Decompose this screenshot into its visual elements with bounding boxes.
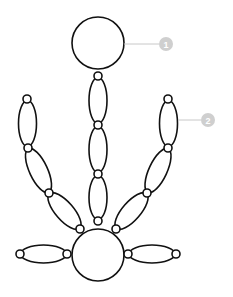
callout-label: 1 bbox=[163, 40, 168, 50]
callout-label: 2 bbox=[205, 116, 210, 126]
node bbox=[94, 170, 102, 178]
node bbox=[143, 189, 151, 197]
node bbox=[124, 250, 132, 258]
node bbox=[24, 144, 32, 152]
callout-1: 1 bbox=[124, 37, 173, 51]
node bbox=[112, 225, 120, 233]
loop bbox=[89, 78, 107, 124]
loop bbox=[89, 176, 107, 220]
loop bbox=[89, 127, 107, 173]
node bbox=[23, 95, 31, 103]
callout-badge-1: 1 bbox=[159, 37, 173, 51]
node bbox=[45, 189, 53, 197]
node bbox=[94, 72, 102, 80]
node bbox=[63, 250, 71, 258]
loop bbox=[21, 245, 67, 263]
callout-2: 2 bbox=[178, 113, 215, 127]
node bbox=[164, 95, 172, 103]
node bbox=[16, 250, 24, 258]
bottom-ring bbox=[72, 229, 124, 281]
loop bbox=[19, 101, 37, 147]
node bbox=[94, 121, 102, 129]
right-arm-upper-loop bbox=[160, 101, 178, 147]
node bbox=[164, 144, 172, 152]
right-arm bbox=[110, 101, 178, 235]
loop-chain-diagram: 1 2 bbox=[0, 0, 233, 297]
loop bbox=[140, 145, 177, 196]
left-arm bbox=[19, 101, 87, 235]
node bbox=[76, 225, 84, 233]
top-ring bbox=[72, 17, 124, 69]
loop bbox=[129, 245, 175, 263]
node bbox=[172, 250, 180, 258]
loop bbox=[20, 145, 57, 196]
callout-badge-2: 2 bbox=[201, 113, 215, 127]
node bbox=[94, 217, 102, 225]
middle-arm bbox=[89, 78, 107, 220]
